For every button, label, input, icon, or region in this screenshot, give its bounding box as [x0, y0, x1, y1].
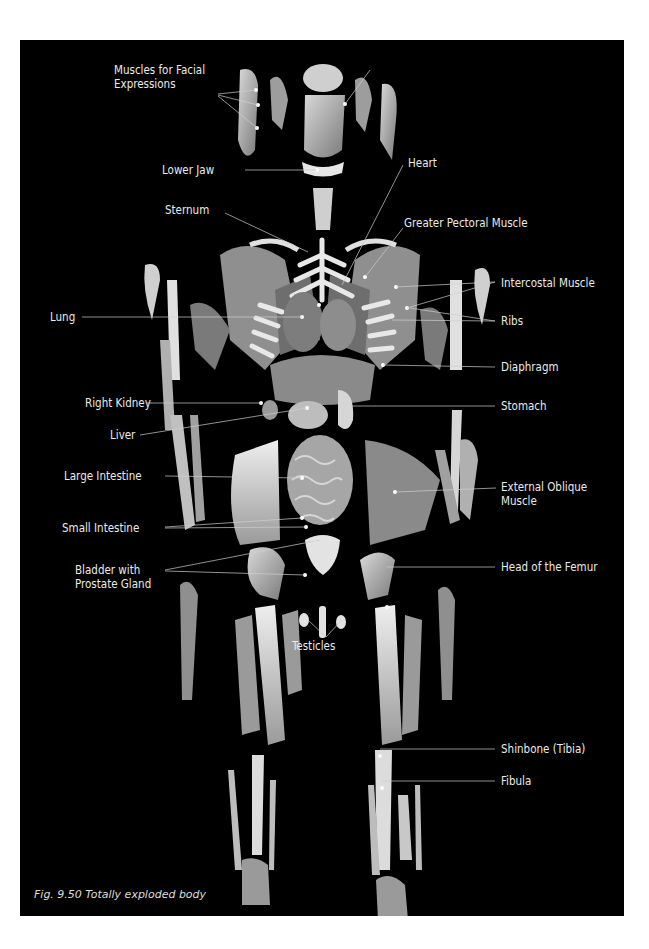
label-greater-pectoral-muscle: Greater Pectoral Muscle — [404, 216, 528, 230]
label-small-intestine: Small Intestine — [62, 521, 139, 535]
figure-caption: Fig. 9.50 Totally exploded body — [34, 888, 206, 901]
label-sternum: Sternum — [165, 203, 209, 217]
label-brain: Brain — [377, 40, 404, 43]
label-lung: Lung — [50, 310, 75, 324]
label-line-2: Prostate Gland — [75, 577, 151, 591]
label-external-oblique-muscle: External Oblique Muscle — [501, 480, 587, 508]
figure-panel: Muscles for Facial Expressions Brain Low… — [20, 40, 624, 916]
label-testicles: Testicles — [292, 639, 335, 653]
label-line-2: Muscle — [501, 494, 587, 508]
label-line-1: Bladder with — [75, 563, 151, 577]
label-shinbone-tibia: Shinbone (Tibia) — [501, 742, 585, 756]
label-ribs: Ribs — [501, 314, 523, 328]
label-liver: Liver — [110, 428, 135, 442]
label-head-of-femur: Head of the Femur — [501, 560, 597, 574]
label-line-2: Expressions — [114, 77, 205, 91]
label-right-kidney: Right Kidney — [85, 396, 151, 410]
label-stomach: Stomach — [501, 399, 547, 413]
label-diaphragm: Diaphragm — [501, 360, 559, 374]
label-line-1: Muscles for Facial — [114, 63, 205, 77]
label-large-intestine: Large Intestine — [64, 469, 142, 483]
label-bladder-prostate: Bladder with Prostate Gland — [75, 563, 151, 591]
label-intercostal-muscle: Intercostal Muscle — [501, 276, 595, 290]
label-fibula: Fibula — [501, 774, 531, 788]
label-muscles-facial-expressions: Muscles for Facial Expressions — [114, 63, 205, 91]
label-lower-jaw: Lower Jaw — [162, 163, 214, 177]
label-heart: Heart — [408, 156, 437, 170]
label-line-1: External Oblique — [501, 480, 587, 494]
